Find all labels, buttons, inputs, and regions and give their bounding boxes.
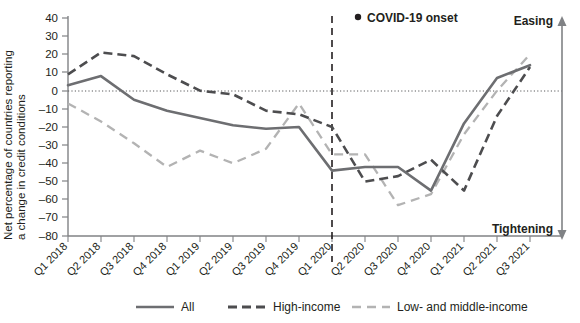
- x-tick-label: Q4 2020: [394, 240, 432, 278]
- y-tick-label: –30: [39, 139, 58, 151]
- y-tick-label: –80: [39, 230, 58, 242]
- y-tick-label: 30: [45, 30, 58, 42]
- covid-onset-dot-icon: [355, 14, 361, 20]
- credit-conditions-line-chart: Net percentage of countries reporting a …: [0, 0, 580, 323]
- x-tick-label: Q1 2021: [427, 240, 465, 278]
- series-line-high-income: [68, 53, 530, 191]
- x-tick-label: Q1 2018: [31, 240, 69, 278]
- x-tick-label: Q3 2021: [493, 240, 531, 278]
- y-tick-label: –50: [39, 175, 58, 187]
- legend-label-high-income: High-income: [273, 300, 341, 314]
- y-tick-label: 40: [45, 12, 58, 24]
- x-tick-label: Q1 2020: [295, 240, 333, 278]
- x-tick-label: Q4 2018: [130, 240, 168, 278]
- legend-item-low-and-middle-income[interactable]: Low- and middle-income: [352, 300, 528, 314]
- y-tick-marks: [62, 18, 68, 236]
- covid-onset-label: COVID-19 onset: [367, 11, 458, 25]
- y-tick-label: –10: [39, 103, 58, 115]
- x-tick-labels: Q1 2018 Q2 2018 Q3 2018 Q4 2018 Q1 2019 …: [31, 240, 531, 278]
- x-tick-label: Q3 2020: [361, 240, 399, 278]
- direction-arrows: Easing Tightening: [492, 14, 567, 240]
- x-axis: Q1 2018 Q2 2018 Q3 2018 Q4 2018 Q1 2019 …: [31, 236, 562, 278]
- x-tick-label: Q2 2021: [460, 240, 498, 278]
- y-axis-title-line2: a change in credit conditions: [15, 94, 27, 240]
- y-tick-labels: 40 30 20 10 0 –10 –20 –30 –40 –50 –60 –7…: [39, 12, 58, 242]
- easing-label: Easing: [514, 14, 553, 28]
- y-tick-label: 20: [45, 48, 58, 60]
- y-tick-label: –40: [39, 157, 58, 169]
- x-tick-label: Q1 2019: [163, 240, 201, 278]
- y-axis: 40 30 20 10 0 –10 –20 –30 –40 –50 –60 –7…: [39, 12, 68, 242]
- chart-legend: All High-income Low- and middle-income: [136, 300, 528, 314]
- up-arrow-icon: [558, 16, 567, 26]
- down-arrow-icon: [558, 230, 567, 240]
- series-line-all: [68, 65, 530, 190]
- y-tick-label: –70: [39, 211, 58, 223]
- legend-item-all[interactable]: All: [136, 300, 194, 314]
- y-tick-label: 0: [52, 85, 58, 97]
- x-tick-label: Q4 2019: [262, 240, 300, 278]
- tightening-label: Tightening: [492, 222, 553, 236]
- x-tick-marks: [68, 236, 530, 242]
- y-axis-title: Net percentage of countries reporting a …: [2, 50, 27, 240]
- legend-label-all: All: [181, 300, 194, 314]
- legend-label-low-and-middle-income: Low- and middle-income: [397, 300, 528, 314]
- series-layer: [68, 53, 530, 206]
- y-tick-label: –60: [39, 193, 58, 205]
- y-axis-title-line1: Net percentage of countries reporting: [2, 50, 14, 240]
- x-tick-label: Q2 2020: [328, 240, 366, 278]
- x-tick-label: Q2 2019: [196, 240, 234, 278]
- chart-figure: Net percentage of countries reporting a …: [0, 0, 580, 323]
- covid-onset-annotation: COVID-19 onset: [355, 11, 458, 25]
- x-tick-label: Q2 2018: [64, 240, 102, 278]
- y-tick-label: –20: [39, 121, 58, 133]
- x-tick-label: Q3 2019: [229, 240, 267, 278]
- legend-item-high-income[interactable]: High-income: [228, 300, 341, 314]
- x-tick-label: Q3 2018: [97, 240, 135, 278]
- y-tick-label: 10: [45, 66, 58, 78]
